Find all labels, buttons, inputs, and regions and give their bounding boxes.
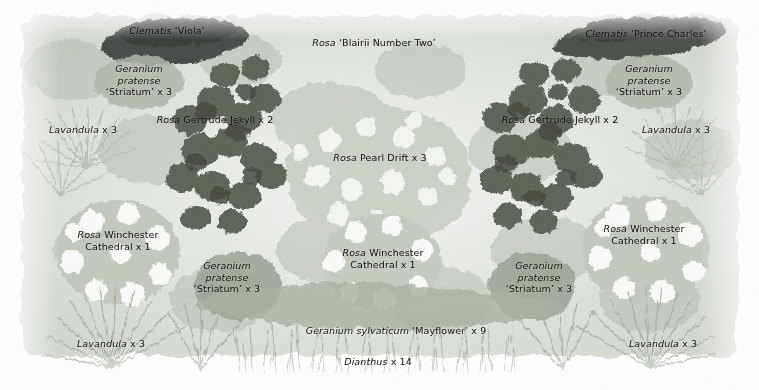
cultivar-text: Cathedral x 1 bbox=[611, 234, 676, 245]
plant-label-line: Geranium bbox=[616, 63, 682, 75]
plant-label-lavandula-bottom-right: Lavandula x 3 bbox=[629, 338, 697, 350]
cultivar-text: ‘Striatum’ x 3 bbox=[106, 86, 172, 97]
genus-text: pratense bbox=[118, 74, 161, 85]
plant-label-geranium-pratense-striatum-top-left: Geraniumpratense‘Striatum’ x 3 bbox=[106, 63, 172, 98]
genus-text: Clematis bbox=[585, 28, 627, 39]
cultivar-text: x 3 bbox=[692, 124, 710, 135]
plant-label-line: Cathedral x 1 bbox=[342, 258, 423, 270]
plant-label-lavandula-top-left: Lavandula x 3 bbox=[49, 124, 117, 136]
genus-text: Lavandula bbox=[629, 338, 679, 349]
plant-label-geranium-pratense-striatum-lower-right: Geraniumpratense‘Striatum’ x 3 bbox=[506, 260, 572, 295]
genus-text: Dianthus bbox=[344, 356, 387, 367]
plant-label-geranium-pratense-striatum-top-right: Geraniumpratense‘Striatum’ x 3 bbox=[616, 63, 682, 98]
plant-label-line: Cathedral x 1 bbox=[77, 240, 158, 252]
plant-label-rosa-gertrude-jekyll-left: Rosa Gertrude Jekyll x 2 bbox=[157, 114, 274, 126]
plant-label-line: Lavandula x 3 bbox=[49, 124, 117, 136]
cultivar-text: Pearl Drift x 3 bbox=[357, 152, 427, 163]
genus-text: Rosa bbox=[333, 152, 357, 163]
genus-text: Lavandula bbox=[77, 338, 127, 349]
plant-label-rosa-winchester-cathedral-centre: Rosa WinchesterCathedral x 1 bbox=[342, 247, 423, 270]
plant-label-line: Geranium sylvaticum ‘Mayflower’ x 9 bbox=[306, 325, 487, 337]
plant-label-line: ‘Striatum’ x 3 bbox=[506, 283, 572, 295]
cultivar-text: ‘Striatum’ x 3 bbox=[616, 86, 682, 97]
plant-label-line: Rosa Winchester bbox=[77, 229, 158, 241]
plant-label-line: pratense bbox=[616, 74, 682, 86]
cultivar-text: Cathedral x 1 bbox=[350, 258, 415, 269]
plant-label-geranium-pratense-striatum-lower-left: Geraniumpratense‘Striatum’ x 3 bbox=[194, 260, 260, 295]
genus-text: Clematis bbox=[129, 25, 171, 36]
plant-label-rosa-pearl-drift: Rosa Pearl Drift x 3 bbox=[333, 152, 426, 164]
garden-planting-plan: Clematis ‘Viola’Rosa ‘Blairii Number Two… bbox=[0, 0, 759, 390]
plant-label-line: Rosa Winchester bbox=[603, 223, 684, 235]
cultivar-text: x 3 bbox=[127, 338, 145, 349]
genus-text: Rosa bbox=[603, 223, 627, 234]
cultivar-text: x 3 bbox=[679, 338, 697, 349]
plant-label-line: Clematis ‘Prince Charles’ bbox=[585, 28, 706, 40]
genus-text: Geranium bbox=[515, 260, 563, 271]
cultivar-text: x 14 bbox=[388, 356, 412, 367]
cultivar-text: ‘Blairii Number Two’ bbox=[336, 37, 436, 48]
plant-label-line: Rosa Gertrude Jekyll x 2 bbox=[502, 114, 619, 126]
cultivar-text: Winchester bbox=[101, 229, 158, 240]
plant-label-clematis-prince-charles: Clematis ‘Prince Charles’ bbox=[585, 28, 706, 40]
cultivar-text: ‘Striatum’ x 3 bbox=[194, 283, 260, 294]
plant-label-lavandula-bottom-left: Lavandula x 3 bbox=[77, 338, 145, 350]
plant-label-dianthus: Dianthus x 14 bbox=[344, 356, 412, 368]
plant-label-line: pratense bbox=[194, 271, 260, 283]
cultivar-text: ‘Mayflower’ x 9 bbox=[409, 325, 486, 336]
plant-label-line: Geranium bbox=[506, 260, 572, 272]
plant-label-line: Lavandula x 3 bbox=[629, 338, 697, 350]
plant-label-line: ‘Striatum’ x 3 bbox=[194, 283, 260, 295]
plant-label-line: ‘Striatum’ x 3 bbox=[616, 86, 682, 98]
cultivar-text: Gertrude Jekyll x 2 bbox=[180, 114, 273, 125]
plant-label-line: pratense bbox=[506, 271, 572, 283]
plant-label-line: Cathedral x 1 bbox=[603, 234, 684, 246]
plant-label-line: Rosa Gertrude Jekyll x 2 bbox=[157, 114, 274, 126]
genus-text: Rosa bbox=[342, 247, 366, 258]
genus-text: Geranium bbox=[115, 63, 163, 74]
plant-label-geranium-sylvaticum-mayflower: Geranium sylvaticum ‘Mayflower’ x 9 bbox=[306, 325, 487, 337]
cultivar-text: ‘Striatum’ x 3 bbox=[506, 283, 572, 294]
plant-label-line: ‘Striatum’ x 3 bbox=[106, 86, 172, 98]
plant-label-line: Dianthus x 14 bbox=[344, 356, 412, 368]
genus-text: Geranium bbox=[203, 260, 251, 271]
cultivar-text: Winchester bbox=[627, 223, 684, 234]
plant-label-clematis-viola: Clematis ‘Viola’ bbox=[129, 25, 204, 37]
genus-text: Rosa bbox=[502, 114, 526, 125]
cultivar-text: Gertrude Jekyll x 2 bbox=[525, 114, 618, 125]
plant-label-line: Lavandula x 3 bbox=[77, 338, 145, 350]
genus-text: pratense bbox=[518, 271, 561, 282]
plant-label-line: Rosa ‘Blairii Number Two’ bbox=[312, 37, 436, 49]
genus-text: Rosa bbox=[157, 114, 181, 125]
genus-text: Lavandula bbox=[642, 124, 692, 135]
plant-label-line: Clematis ‘Viola’ bbox=[129, 25, 204, 37]
plant-label-line: Rosa Winchester bbox=[342, 247, 423, 259]
genus-text: Geranium sylvaticum bbox=[306, 325, 409, 336]
plant-label-line: Rosa Pearl Drift x 3 bbox=[333, 152, 426, 164]
plant-label-lavandula-top-right: Lavandula x 3 bbox=[642, 124, 710, 136]
cultivar-text: Cathedral x 1 bbox=[85, 240, 150, 251]
rosa-pearl-drift-mass bbox=[286, 106, 470, 230]
plant-label-rosa-gertrude-jekyll-right: Rosa Gertrude Jekyll x 2 bbox=[502, 114, 619, 126]
cultivar-text: x 3 bbox=[99, 124, 117, 135]
plant-label-line: Geranium bbox=[106, 63, 172, 75]
plant-label-rosa-blairii-number-two: Rosa ‘Blairii Number Two’ bbox=[312, 37, 436, 49]
genus-text: pratense bbox=[206, 271, 249, 282]
plant-label-line: Geranium bbox=[194, 260, 260, 272]
genus-text: Rosa bbox=[77, 229, 101, 240]
genus-text: Lavandula bbox=[49, 124, 99, 135]
cultivar-text: Winchester bbox=[366, 247, 423, 258]
genus-text: pratense bbox=[628, 74, 671, 85]
plant-label-line: pratense bbox=[106, 74, 172, 86]
plant-label-line: Lavandula x 3 bbox=[642, 124, 710, 136]
plant-label-rosa-winchester-cathedral-right: Rosa WinchesterCathedral x 1 bbox=[603, 223, 684, 246]
genus-text: Rosa bbox=[312, 37, 336, 48]
genus-text: Geranium bbox=[625, 63, 673, 74]
cultivar-text: ‘Prince Charles’ bbox=[628, 28, 707, 39]
plant-label-rosa-winchester-cathedral-left: Rosa WinchesterCathedral x 1 bbox=[77, 229, 158, 252]
cultivar-text: ‘Viola’ bbox=[172, 25, 205, 36]
